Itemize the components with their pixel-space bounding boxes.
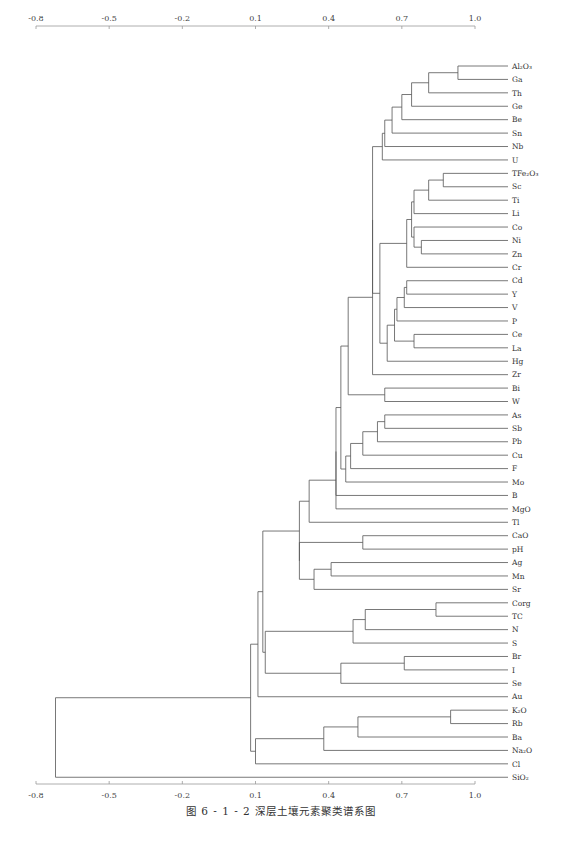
leaf-label-na2o: Na₂O: [512, 746, 532, 755]
merge-link: [443, 173, 508, 186]
bottom-axis: -0.8-0.5-0.20.10.40.71.0: [28, 781, 481, 800]
merge-link: [358, 717, 508, 737]
merge-link: [348, 297, 385, 394]
merge-link: [414, 334, 508, 347]
leaf-label-bi: Bi: [512, 384, 521, 393]
merge-link: [429, 73, 508, 93]
bottom-tick-label: 0.4: [322, 791, 335, 800]
merge-link: [256, 739, 509, 764]
leaf-label-ga: Ga: [512, 75, 523, 84]
merge-link: [421, 240, 508, 253]
leaf-label-ba: Ba: [512, 733, 523, 742]
dendrogram-chart: -0.8-0.5-0.20.10.40.71.0 -0.8-0.5-0.20.1…: [0, 0, 562, 800]
merge-link: [414, 227, 508, 247]
leaf-label-corg: Corg: [512, 599, 531, 608]
merge-link: [299, 501, 309, 561]
leaf-label-al2o3: Al₂O₃: [511, 62, 532, 71]
merge-link: [324, 727, 508, 750]
top-tick-label: -0.2: [175, 14, 190, 23]
leaf-label-as: As: [511, 411, 521, 420]
merge-link: [429, 180, 508, 200]
leaf-label-i: I: [512, 666, 515, 675]
leaf-label-sc: Sc: [512, 182, 521, 191]
leaf-label-rb: Rb: [512, 719, 523, 728]
bottom-tick-label: 1.0: [469, 791, 482, 800]
merge-link: [392, 107, 508, 133]
leaf-label-mo: Mo: [512, 478, 525, 487]
leaf-label-w: W: [512, 397, 520, 406]
bottom-tick-label: 0.7: [395, 791, 408, 800]
top-tick-label: -0.8: [28, 14, 43, 23]
merge-link: [402, 95, 508, 120]
leaf-label-nb: Nb: [512, 142, 524, 151]
leaf-label-ag: Ag: [511, 558, 522, 567]
merge-link: [377, 422, 508, 442]
leaf-label-se: Se: [512, 679, 522, 688]
leaf-labels: Al₂O₃GaThGeBeSnNbUTFe₂O₃ScTiLiCoNiZnCrCd…: [511, 62, 538, 782]
leaf-label-cl: Cl: [512, 760, 521, 769]
bottom-tick-label: 0.1: [249, 791, 262, 800]
leaf-label-zn: Zn: [512, 250, 522, 259]
merge-link: [353, 620, 508, 643]
merge-link: [380, 243, 407, 343]
leaf-label-sr: Sr: [512, 585, 521, 594]
merge-link: [412, 83, 508, 106]
leaf-label-sb: Sb: [512, 424, 522, 433]
leaf-label-hg: Hg: [512, 357, 524, 366]
top-tick-label: -0.5: [101, 14, 116, 23]
dendrogram-tree: [56, 66, 508, 777]
leaf-label-ge: Ge: [512, 102, 523, 111]
leaf-label-zr: Zr: [512, 370, 521, 379]
leaf-label-li: Li: [512, 209, 520, 218]
leaf-label-y: Y: [511, 290, 518, 299]
leaf-label-v: V: [511, 303, 518, 312]
merge-link: [56, 698, 508, 778]
leaf-label-ph: pH: [512, 545, 524, 554]
leaf-label-cao: CaO: [512, 531, 528, 540]
merge-link: [363, 536, 508, 549]
leaf-label-sn: Sn: [512, 129, 522, 138]
merge-link: [331, 563, 508, 576]
leaf-label-f: F: [512, 464, 517, 473]
leaf-label-b: B: [512, 491, 518, 500]
merge-link: [341, 346, 348, 469]
merge-link: [404, 656, 508, 669]
leaf-label-la: La: [512, 344, 522, 353]
leaf-label-tc: TC: [512, 612, 523, 621]
merge-link: [363, 432, 508, 455]
merge-link: [365, 610, 508, 630]
top-axis: -0.8-0.5-0.20.10.40.71.0: [28, 14, 481, 29]
merge-link: [385, 415, 508, 428]
merge-link: [251, 644, 258, 751]
merge-link: [407, 281, 508, 294]
merge-link: [436, 603, 508, 616]
merge-link: [341, 663, 508, 683]
merge-link: [395, 309, 415, 341]
merge-link: [387, 325, 508, 361]
bottom-tick-label: -0.2: [175, 791, 190, 800]
top-tick-label: 0.7: [395, 14, 408, 23]
merge-link: [414, 190, 508, 213]
leaf-label-pb: Pb: [512, 437, 522, 446]
merge-link: [351, 443, 508, 468]
top-tick-label: 1.0: [469, 14, 482, 23]
leaf-label-mgo: MgO: [512, 505, 531, 514]
leaf-label-ce: Ce: [512, 330, 523, 339]
merge-link: [385, 388, 508, 401]
leaf-label-cd: Cd: [512, 276, 523, 285]
merge-link: [309, 480, 508, 522]
merge-link: [404, 287, 508, 307]
merge-link: [314, 569, 508, 589]
top-tick-label: 0.4: [322, 14, 335, 23]
merge-link: [397, 297, 508, 320]
merge-link: [373, 147, 383, 294]
merge-link: [346, 456, 508, 482]
top-tick-label: 0.1: [249, 14, 262, 23]
merge-link: [451, 710, 508, 723]
figure-caption: 图 6 - 1 - 2 深层土壤元素聚类谱系图: [0, 803, 562, 818]
leaf-label-ti: Ti: [512, 196, 520, 205]
leaf-label-tfe2o3: TFe₂O₃: [512, 169, 538, 178]
leaf-label-au: Au: [511, 692, 522, 701]
leaf-label-k2o: K₂O: [512, 706, 527, 715]
leaf-label-mn: Mn: [512, 572, 525, 581]
